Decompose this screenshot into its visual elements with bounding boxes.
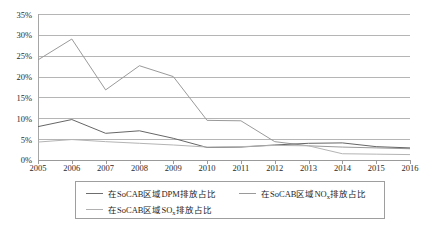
- y-tick-label: 30%: [2, 31, 32, 40]
- x-tick-label: 2007: [89, 164, 123, 173]
- legend-label-sox: 在SoCAB区域SOx排放占比: [108, 203, 212, 215]
- x-tick-label: 2013: [292, 164, 326, 173]
- legend-swatch-dpm-icon: [86, 193, 103, 194]
- x-tick-label: 2014: [325, 164, 359, 173]
- x-tick-label: 2008: [123, 164, 157, 173]
- series-layer: [38, 14, 410, 160]
- x-tick-label: 2012: [258, 164, 292, 173]
- x-tick-label: 2011: [224, 164, 258, 173]
- x-axis-line: [39, 160, 410, 161]
- series-line-nox: [38, 120, 410, 148]
- y-tick-label: 10%: [2, 115, 32, 124]
- y-tick-label: 35%: [2, 11, 32, 20]
- chart-legend: 在SoCAB区域DPM排放占比 在SoCAB区域NOx排放占比 在SoCAB区域…: [75, 181, 385, 219]
- y-tick-label: 25%: [2, 52, 32, 61]
- legend-label-dpm: 在SoCAB区域DPM排放占比: [108, 187, 216, 199]
- y-tick-label: 5%: [2, 136, 32, 145]
- x-tick-label: 2005: [21, 164, 55, 173]
- series-line-dpm: [38, 39, 410, 149]
- x-tick-label: 2016: [393, 164, 427, 173]
- x-tick-label: 2006: [55, 164, 89, 173]
- legend-item-sox[interactable]: 在SoCAB区域SOx排放占比: [86, 203, 212, 215]
- x-tick-label: 2009: [156, 164, 190, 173]
- x-tick-label: 2015: [359, 164, 393, 173]
- y-tick-label: 15%: [2, 94, 32, 103]
- legend-item-nox[interactable]: 在SoCAB区域NOx排放占比: [239, 187, 366, 199]
- legend-item-dpm[interactable]: 在SoCAB区域DPM排放占比: [86, 187, 216, 199]
- line-chart: 35% 30% 25% 20% 15% 10% 5% 0%: [0, 0, 435, 226]
- y-tick-label: 20%: [2, 73, 32, 82]
- x-tick-label: 2010: [190, 164, 224, 173]
- legend-swatch-nox-icon: [239, 193, 256, 194]
- legend-label-nox: 在SoCAB区域NOx排放占比: [261, 187, 366, 199]
- legend-swatch-sox-icon: [86, 209, 103, 210]
